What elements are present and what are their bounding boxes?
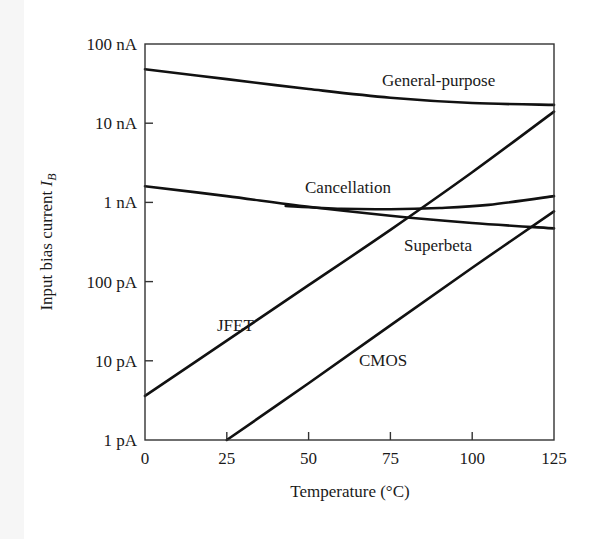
label-general-purpose: General-purpose xyxy=(382,71,495,90)
curve-cancellation xyxy=(286,196,554,209)
label-cmos: CMOS xyxy=(359,351,407,370)
y-axis-title: Input bias current IB xyxy=(37,173,59,311)
label-superbeta: Superbeta xyxy=(404,236,472,255)
x-tick-label: 100 xyxy=(459,449,485,468)
bias-current-chart: 02550751001251 pA10 pA100 pA1 nA10 nA100… xyxy=(0,0,603,539)
y-tick-label: 1 nA xyxy=(103,193,137,212)
x-tick-label: 75 xyxy=(382,449,399,468)
y-tick-label: 1 pA xyxy=(103,431,137,450)
y-tick-label: 100 nA xyxy=(86,35,137,54)
curve-cmos xyxy=(227,211,554,440)
x-tick-label: 50 xyxy=(300,449,317,468)
curves xyxy=(145,69,554,440)
y-tick-label: 10 pA xyxy=(95,352,138,371)
label-jfet: JFET xyxy=(217,316,254,335)
axis-ticks xyxy=(145,123,472,440)
x-tick-label: 125 xyxy=(541,449,567,468)
y-tick-label: 10 nA xyxy=(95,114,138,133)
x-tick-label: 0 xyxy=(141,449,150,468)
label-cancellation: Cancellation xyxy=(305,178,391,197)
x-axis-title: Temperature (°C) xyxy=(290,482,409,501)
x-tick-label: 25 xyxy=(218,449,235,468)
y-tick-label: 100 pA xyxy=(86,273,137,292)
